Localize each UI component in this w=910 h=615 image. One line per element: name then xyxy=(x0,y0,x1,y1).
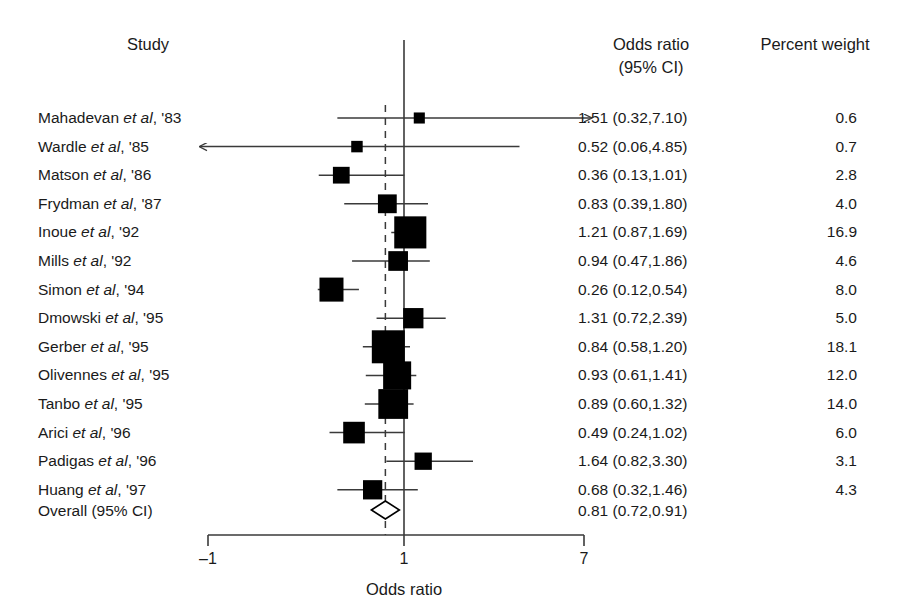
forest-row xyxy=(366,361,417,389)
forest-row xyxy=(365,389,414,419)
et-al: et al xyxy=(103,195,132,212)
study-year: , '92 xyxy=(103,252,132,269)
study-year: , '87 xyxy=(133,195,162,212)
effect-size-marker xyxy=(403,308,423,328)
effect-size-marker xyxy=(383,361,411,389)
x-axis-tick-label: –1 xyxy=(188,550,228,568)
odds-ratio-value: 0.94 (0.47,1.86) xyxy=(578,253,728,269)
percent-weight-value: 2.8 xyxy=(735,167,857,183)
forest-row xyxy=(391,216,426,248)
study-label: Huang et al, '97 xyxy=(38,482,146,498)
study-name: Tanbo xyxy=(38,395,80,412)
study-label: Arici et al, '96 xyxy=(38,425,131,441)
et-al: et al xyxy=(93,166,122,183)
percent-weight-value: 6.0 xyxy=(735,425,857,441)
overall-effect-diamond xyxy=(371,501,399,519)
study-year: , '85 xyxy=(120,138,149,155)
et-al: et al xyxy=(88,481,117,498)
forest-row xyxy=(330,422,405,444)
percent-weight-value: 4.6 xyxy=(735,253,857,269)
odds-ratio-value: 0.26 (0.12,0.54) xyxy=(578,282,728,298)
odds-ratio-value: 0.84 (0.58,1.20) xyxy=(578,339,728,355)
study-name: Olivennes xyxy=(38,366,107,383)
study-year: , '96 xyxy=(128,452,157,469)
study-label: Padigas et al, '96 xyxy=(38,453,156,469)
study-label: Gerber et al, '95 xyxy=(38,339,149,355)
x-axis-tick-label: 7 xyxy=(564,550,604,568)
study-name: Inoue xyxy=(38,223,77,240)
study-year: , '92 xyxy=(110,223,139,240)
study-year: , '95 xyxy=(120,338,149,355)
odds-ratio-value: 0.68 (0.32,1.46) xyxy=(578,482,728,498)
study-label: Simon et al, '94 xyxy=(38,282,144,298)
forest-row xyxy=(318,278,359,302)
study-name: Wardle xyxy=(38,138,87,155)
study-label: Mills et al, '92 xyxy=(38,253,131,269)
effect-size-marker xyxy=(372,330,405,363)
effect-size-marker xyxy=(351,141,362,152)
study-year: , '83 xyxy=(153,109,182,126)
et-al: et al xyxy=(105,309,134,326)
forest-row xyxy=(200,141,520,152)
study-name: Matson xyxy=(38,166,89,183)
study-name: Padigas xyxy=(38,452,94,469)
forest-row xyxy=(319,167,405,184)
odds-ratio-value: 1.51 (0.32,7.10) xyxy=(578,110,728,126)
forest-row xyxy=(386,453,473,470)
effect-size-marker xyxy=(378,194,397,213)
study-label: Wardle et al, '85 xyxy=(38,139,149,155)
percent-weight-value: 12.0 xyxy=(735,367,857,383)
effect-size-marker xyxy=(333,167,350,184)
forest-plot: Study Odds ratio (95% CI) Percent weight… xyxy=(0,0,910,615)
et-al: et al xyxy=(86,281,115,298)
study-name: Arici xyxy=(38,424,68,441)
et-al: et al xyxy=(72,424,101,441)
forest-row xyxy=(337,480,417,499)
effect-size-marker xyxy=(388,251,408,271)
effect-size-marker xyxy=(414,112,425,123)
forest-row xyxy=(352,251,430,271)
odds-ratio-value: 0.83 (0.39,1.80) xyxy=(578,196,728,212)
study-year: , '95 xyxy=(141,366,170,383)
percent-weight-value: 0.7 xyxy=(735,139,857,155)
percent-weight-value: 4.0 xyxy=(735,196,857,212)
forest-plot-canvas xyxy=(0,0,910,615)
forest-row xyxy=(377,308,446,328)
percent-weight-value: 8.0 xyxy=(735,282,857,298)
percent-weight-value: 18.1 xyxy=(735,339,857,355)
study-label: Tanbo et al, '95 xyxy=(38,396,143,412)
study-year: , '86 xyxy=(122,166,151,183)
effect-size-marker xyxy=(394,216,426,248)
et-al: et al xyxy=(123,109,152,126)
percent-weight-value: 0.6 xyxy=(735,110,857,126)
odds-ratio-value: 0.52 (0.06,4.85) xyxy=(578,139,728,155)
effect-size-marker xyxy=(319,278,343,302)
percent-weight-value: 5.0 xyxy=(735,310,857,326)
et-al: et al xyxy=(91,138,120,155)
overall-odds-ratio-value: 0.81 (0.72,0.91) xyxy=(578,503,728,519)
x-axis-label: Odds ratio xyxy=(304,580,504,599)
study-year: , '94 xyxy=(116,281,145,298)
study-name: Mahadevan xyxy=(38,109,119,126)
et-al: et al xyxy=(85,395,114,412)
odds-ratio-value: 0.36 (0.13,1.01) xyxy=(578,167,728,183)
forest-row xyxy=(337,112,592,123)
percent-weight-value: 16.9 xyxy=(735,224,857,240)
odds-ratio-value: 0.89 (0.60,1.32) xyxy=(578,396,728,412)
x-axis-tick-label: 1 xyxy=(384,550,424,568)
study-label: Inoue et al, '92 xyxy=(38,224,139,240)
study-label: Mahadevan et al, '83 xyxy=(38,110,181,126)
overall-label: Overall (95% CI) xyxy=(38,503,153,519)
study-name: Huang xyxy=(38,481,84,498)
et-al: et al xyxy=(98,452,127,469)
odds-ratio-value: 0.93 (0.61,1.41) xyxy=(578,367,728,383)
effect-size-marker xyxy=(415,453,432,470)
effect-size-marker xyxy=(378,389,408,419)
study-name: Simon xyxy=(38,281,82,298)
study-name: Mills xyxy=(38,252,69,269)
study-label: Dmowski et al, '95 xyxy=(38,310,163,326)
study-year: , '97 xyxy=(117,481,146,498)
percent-weight-value: 3.1 xyxy=(735,453,857,469)
effect-size-marker xyxy=(363,480,382,499)
forest-row xyxy=(363,330,410,363)
